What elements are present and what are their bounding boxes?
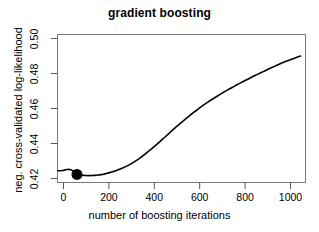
x-tick-label-0: 0 — [44, 191, 84, 203]
data-series-line — [58, 56, 301, 176]
y-tick-label-2: 0.46 — [28, 94, 40, 124]
y-tick-label-3: 0.44 — [28, 129, 40, 159]
y-tick-label-0: 0.50 — [28, 24, 40, 54]
chart-figure: gradient boosting neg. cross-validated l… — [0, 0, 319, 232]
y-tick-label-1: 0.48 — [28, 59, 40, 89]
x-tick-label-4: 800 — [225, 191, 265, 203]
x-tick-label-2: 400 — [134, 191, 174, 203]
y-axis-ticks — [51, 39, 58, 179]
x-tick-label-1: 200 — [89, 191, 129, 203]
y-tick-label-4: 0.42 — [28, 164, 40, 194]
x-tick-label-5: 1000 — [271, 191, 311, 203]
x-axis-ticks — [64, 183, 291, 190]
optimum-marker-dot — [71, 169, 82, 180]
plot-frame — [58, 35, 306, 183]
x-tick-label-3: 600 — [180, 191, 220, 203]
